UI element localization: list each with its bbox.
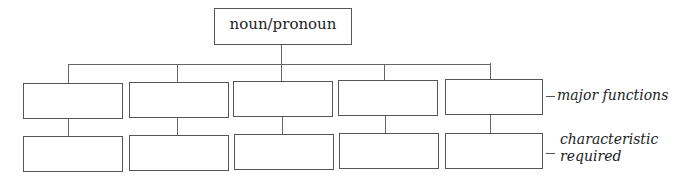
major-functions-label: major functions — [557, 87, 668, 104]
major-function-box-3 — [233, 81, 333, 117]
characteristic-box-2 — [129, 135, 229, 171]
characteristic-label-line1: characteristic — [560, 131, 658, 148]
characteristic-dash — [546, 153, 555, 154]
drop-connector-1 — [68, 65, 69, 83]
row-link-2 — [177, 118, 178, 135]
drop-connector-5 — [490, 63, 491, 79]
row-link-1 — [68, 119, 69, 136]
major-function-box-2 — [129, 82, 229, 118]
root-node: noun/pronoun — [214, 8, 352, 45]
root-label: noun/pronoun — [215, 15, 351, 33]
characteristic-box-5 — [445, 133, 543, 169]
row-link-4 — [385, 116, 386, 133]
major-function-box-4 — [338, 80, 438, 116]
characteristic-box-4 — [339, 133, 439, 169]
characteristic-box-1 — [23, 136, 123, 172]
characteristic-box-3 — [234, 134, 334, 170]
horizontal-connector — [68, 64, 491, 65]
row-link-5 — [490, 115, 491, 133]
root-stem — [281, 45, 282, 64]
major-function-box-5 — [445, 79, 543, 115]
characteristic-required-label: characteristic required — [560, 131, 658, 165]
drop-connector-3 — [281, 64, 282, 81]
drop-connector-2 — [177, 65, 178, 82]
major-functions-dash — [546, 96, 555, 97]
row-link-3 — [282, 117, 283, 134]
major-function-box-1 — [23, 83, 123, 119]
characteristic-label-line2: required — [560, 148, 658, 165]
drop-connector-4 — [384, 64, 385, 80]
